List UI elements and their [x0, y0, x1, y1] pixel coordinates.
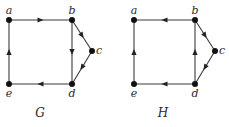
- arrowhead-icon: [203, 64, 208, 70]
- vertex-c: c: [89, 44, 102, 57]
- vertex-e: e: [6, 81, 13, 100]
- vertex-b: b: [68, 4, 75, 23]
- directed-graphs-figure: abcdeGabcdeH: [0, 0, 229, 127]
- edge-e-a: [131, 20, 136, 84]
- edge-c-d: [195, 51, 215, 84]
- edge-a-b: [9, 17, 72, 22]
- arrowhead-icon: [80, 64, 85, 70]
- edge-b-c: [195, 20, 215, 51]
- graph-canvas: abcdeGabcdeH: [0, 0, 229, 127]
- vertex-c: c: [212, 44, 225, 57]
- edge-d-e: [9, 81, 72, 86]
- arrowhead-icon: [162, 81, 168, 86]
- arrowhead-icon: [69, 49, 74, 55]
- vertex-label: e: [131, 87, 138, 100]
- vertex-label: a: [6, 4, 13, 17]
- edge-b-c: [72, 20, 92, 51]
- edge-b-a: [134, 17, 195, 22]
- edge-d-b: [192, 20, 197, 84]
- vertex-label: b: [68, 4, 75, 17]
- graph-caption: H: [157, 106, 169, 120]
- edge-c-d: [72, 51, 92, 84]
- graph-caption: G: [35, 106, 45, 120]
- arrowhead-icon: [38, 81, 44, 86]
- vertex-label: c: [219, 44, 225, 57]
- vertex-label: d: [68, 87, 75, 100]
- graph-H: abcdeH: [131, 4, 225, 120]
- vertex-d: d: [68, 81, 75, 100]
- arrowhead-icon: [6, 49, 11, 55]
- vertex-a: a: [131, 4, 138, 23]
- vertex-label: e: [6, 87, 13, 100]
- arrowhead-icon: [192, 49, 197, 55]
- graph-G: abcdeG: [6, 4, 102, 120]
- vertex-d: d: [191, 81, 198, 100]
- arrowhead-icon: [78, 32, 83, 38]
- arrowhead-icon: [131, 49, 136, 55]
- vertex-label: d: [191, 87, 198, 100]
- edge-b-d: [69, 20, 74, 84]
- arrowhead-icon: [162, 17, 168, 22]
- vertex-a: a: [6, 4, 13, 23]
- edge-e-a: [6, 20, 11, 84]
- vertex-label: a: [131, 4, 138, 17]
- vertex-label: b: [191, 4, 198, 17]
- vertex-e: e: [131, 81, 138, 100]
- vertex-b: b: [191, 4, 198, 23]
- vertex-label: c: [96, 44, 102, 57]
- arrowhead-icon: [201, 32, 206, 38]
- arrowhead-icon: [38, 17, 44, 22]
- edge-d-e: [134, 81, 195, 86]
